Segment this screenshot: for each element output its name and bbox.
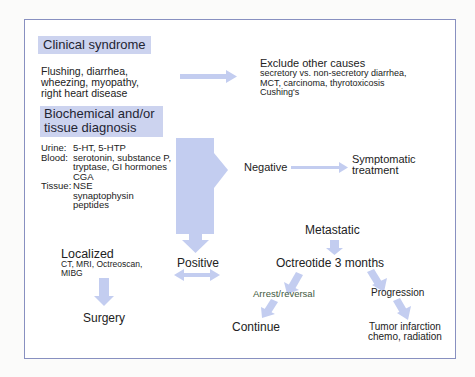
symptomatic-treatment: Symptomatic treatment <box>352 154 416 176</box>
progression-label: Progression <box>371 287 424 298</box>
octreotide-label: Octreotide 3 months <box>276 256 384 270</box>
continue-label: Continue <box>232 320 280 334</box>
arrow-right-icon <box>180 70 237 83</box>
arrow-diag-right-icon <box>393 298 411 320</box>
exclude-line: Cushing's <box>260 88 407 98</box>
localized-line: MIBG <box>61 269 142 278</box>
metastatic-label: Metastatic <box>305 223 360 237</box>
biochemical-heading: Biochemical and/or tissue diagnosis <box>40 106 163 137</box>
clinical-syndrome-symptoms: Flushing, diarrhea, wheezing, myopathy, … <box>41 66 139 99</box>
negative-label: Negative <box>244 161 287 173</box>
tissue-values: NSE synaptophysin peptides <box>73 181 134 210</box>
heading-line: Biochemical and/or <box>44 107 155 121</box>
localized-block: Localized CT, MRI, Octreoscan, MIBG <box>61 248 142 277</box>
clinical-syndrome-heading: Clinical syndrome <box>38 36 151 54</box>
double-arrow-icon <box>174 269 220 281</box>
blood-label: Blood: <box>41 153 73 182</box>
block-arrow-icon <box>176 138 228 253</box>
symptom-line: right heart disease <box>41 88 139 99</box>
arrow-down-icon <box>326 240 343 255</box>
tissue-value: peptides <box>73 200 134 210</box>
surgery-label: Surgery <box>83 311 125 325</box>
diagnosis-tests: Urine: 5-HT, 5-HTP Blood: serotonin, sub… <box>41 143 171 210</box>
arrest-reversal-label: Arrest/reversal <box>253 288 315 299</box>
tissue-row: Tissue: NSE synaptophysin peptides <box>41 181 171 210</box>
positive-label: Positive <box>177 256 219 270</box>
arrow-right-icon <box>291 162 348 173</box>
blood-values: serotonin, substance P, tryptase, GI hor… <box>73 153 171 182</box>
progression-line: chemo, radiation <box>368 332 442 342</box>
blood-row: Blood: serotonin, substance P, tryptase,… <box>41 153 171 182</box>
tissue-label: Tissue: <box>41 181 73 210</box>
arrow-down-icon <box>94 278 114 306</box>
exclude-other-causes: Exclude other causes secretory vs. non-s… <box>260 58 407 98</box>
result-line: treatment <box>352 165 416 176</box>
heading-line: tissue diagnosis <box>44 121 155 135</box>
arrow-diag-left-icon <box>261 299 278 318</box>
tumor-infarction-block: Tumor infarction chemo, radiation <box>368 322 442 342</box>
